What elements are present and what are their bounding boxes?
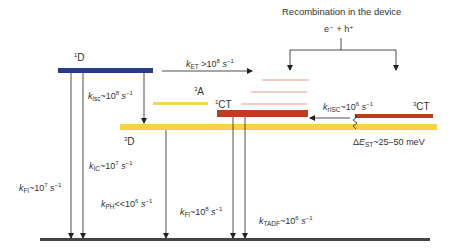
singlet-donor-bar bbox=[58, 68, 153, 73]
triplet-acceptor-label: 3A bbox=[194, 84, 204, 97]
triplet-ct-label: 3CT bbox=[413, 99, 430, 112]
k-risc-label: krISC~106 s−1 bbox=[323, 99, 373, 115]
singlet-donor-label: 1D bbox=[74, 50, 85, 63]
ground-state-bar bbox=[40, 238, 430, 241]
k-fl-donor-label: kFl~107 s−1 bbox=[19, 180, 61, 196]
singlet-ct-label: 1CT bbox=[215, 97, 232, 110]
triplet-donor-bar bbox=[120, 124, 437, 130]
diagram-graphics bbox=[0, 0, 453, 252]
recombination-title: Recombination in the device bbox=[282, 7, 401, 17]
k-et-label: kET >108 s−1 bbox=[186, 56, 234, 72]
carrier-label: e⁻ + h⁺ bbox=[324, 24, 354, 34]
energy-gap-label: ΔEST~25–50 meV bbox=[353, 137, 425, 150]
k-tadf-label: kTADF~106 s−1 bbox=[259, 213, 312, 229]
triplet-acceptor-bar bbox=[153, 102, 208, 105]
k-ic-label: kIC~107 s−1 bbox=[89, 158, 132, 174]
triplet-donor-label: 3D bbox=[124, 134, 135, 147]
k-isc-label: kisc~108 s−1 bbox=[88, 88, 133, 104]
singlet-ct-bar bbox=[217, 110, 308, 117]
k-fl-ct-label: kFl~108 s−1 bbox=[180, 204, 222, 220]
k-ph-label: kPH<<106 s−1 bbox=[101, 196, 152, 212]
tadf-energy-diagram: Recombination in the device e⁻ + h⁺ 1D 3… bbox=[0, 0, 453, 252]
